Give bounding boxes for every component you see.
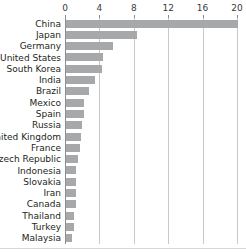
category-label: Malaysia xyxy=(22,234,61,243)
category-label: Czech Republic xyxy=(0,155,61,164)
category-label: Thailand xyxy=(22,212,61,221)
category-label: Indonesia xyxy=(17,167,61,176)
bar xyxy=(66,121,82,129)
x-tick-mark xyxy=(65,15,66,18)
category-axis-labels: ChinaJapanGermanyUnited StatesSouth Kore… xyxy=(0,18,61,244)
bar xyxy=(66,76,95,84)
bar xyxy=(66,200,76,208)
bar xyxy=(66,65,102,73)
category-label: Iran xyxy=(43,189,61,198)
category-label: United States xyxy=(0,54,61,63)
gridline xyxy=(237,18,238,244)
x-tick-mark xyxy=(134,15,135,18)
bar xyxy=(66,155,78,163)
category-label: Japan xyxy=(36,31,61,40)
bar xyxy=(66,234,72,242)
category-label: Spain xyxy=(36,110,61,119)
bar xyxy=(66,223,74,231)
category-label: United Kingdom xyxy=(0,133,61,142)
y-axis-line xyxy=(65,18,66,244)
bar-chart: 048121620 ChinaJapanGermanyUnited States… xyxy=(0,0,246,252)
footer-rule xyxy=(0,248,246,249)
category-label: Mexico xyxy=(30,99,61,108)
bar xyxy=(66,178,76,186)
bar xyxy=(66,87,89,95)
x-tick-mark xyxy=(203,15,204,18)
bar xyxy=(66,212,74,220)
x-tick-label: 12 xyxy=(162,3,173,13)
bar xyxy=(66,189,76,197)
x-tick-label: 20 xyxy=(231,3,242,13)
bar xyxy=(66,110,84,118)
category-label: Germany xyxy=(20,42,61,51)
category-label: China xyxy=(35,20,61,29)
category-label: Turkey xyxy=(32,223,61,232)
bar xyxy=(66,53,103,61)
gridline xyxy=(99,18,100,244)
category-label: Slovakia xyxy=(23,178,61,187)
gridline xyxy=(168,18,169,244)
x-tick-label: 4 xyxy=(97,3,103,13)
x-tick-label: 8 xyxy=(131,3,137,13)
category-label: Russia xyxy=(32,121,61,130)
bar xyxy=(66,133,81,141)
plot-area xyxy=(65,18,237,244)
x-axis: 048121620 xyxy=(65,0,237,18)
gridline xyxy=(203,18,204,244)
category-label: India xyxy=(39,76,61,85)
bar xyxy=(66,144,80,152)
x-tick-mark xyxy=(237,15,238,18)
gridline xyxy=(134,18,135,244)
x-tick-mark xyxy=(168,15,169,18)
bar xyxy=(66,31,137,39)
x-tick-mark xyxy=(99,15,100,18)
category-label: Brazil xyxy=(36,87,61,96)
x-tick-label: 0 xyxy=(62,3,68,13)
bar xyxy=(66,42,113,50)
category-label: France xyxy=(31,144,61,153)
x-tick-label: 16 xyxy=(197,3,208,13)
bar xyxy=(66,99,84,107)
bar xyxy=(66,20,238,28)
category-label: Canada xyxy=(27,200,61,209)
category-label: South Korea xyxy=(6,65,61,74)
bar xyxy=(66,166,76,174)
